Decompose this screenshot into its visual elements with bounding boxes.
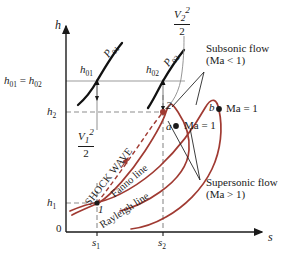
ytick-h2: h2 bbox=[47, 105, 56, 121]
supersonic-flow-line2: (Ma > 1) bbox=[206, 188, 245, 200]
ytick-h01-h02: h01 = h02 bbox=[4, 74, 42, 90]
diagram-canvas bbox=[0, 0, 288, 254]
supersonic-flow-line1: Supersonic flow bbox=[206, 176, 278, 188]
origin-label: 0 bbox=[56, 222, 62, 234]
label-h02: h02 bbox=[146, 63, 159, 79]
leader-subsonic-1 bbox=[172, 72, 204, 107]
label-point-2: 2 bbox=[166, 99, 172, 111]
label-h01: h01 bbox=[80, 63, 93, 79]
xtick-label-s1: s1 bbox=[92, 236, 100, 252]
state-point-a bbox=[173, 123, 179, 129]
label-point-b: b bbox=[209, 101, 215, 113]
subsonic-flow-line2: (Ma < 1) bbox=[206, 54, 245, 66]
label-ma-equals-1-b: Ma = 1 bbox=[226, 102, 258, 114]
label-point-a: a bbox=[166, 120, 172, 132]
x-axis-label: s bbox=[268, 231, 273, 244]
y-axis-label: h bbox=[55, 19, 61, 32]
annotation-subsonic-flow: Subsonic flow (Ma < 1) bbox=[206, 42, 269, 67]
ytick-h1: h1 bbox=[47, 196, 56, 212]
label-ma-equals-1-a: Ma = 1 bbox=[184, 119, 216, 131]
hs-diagram-figure: h s 0 h01 = h02 h2 h1 s1 s2 h01 h02 P01 … bbox=[0, 0, 288, 254]
subsonic-flow-line1: Subsonic flow bbox=[206, 42, 269, 54]
xtick-label-s2: s2 bbox=[158, 236, 166, 252]
annotation-supersonic-flow: Supersonic flow (Ma > 1) bbox=[206, 176, 278, 201]
label-v1-kinetic-energy: V12 2 bbox=[78, 128, 94, 160]
label-point-1: 1 bbox=[98, 203, 104, 215]
state-point-b bbox=[216, 106, 222, 112]
label-v2-kinetic-energy: V22 2 bbox=[174, 6, 190, 38]
leader-supersonic-2 bbox=[190, 128, 200, 180]
